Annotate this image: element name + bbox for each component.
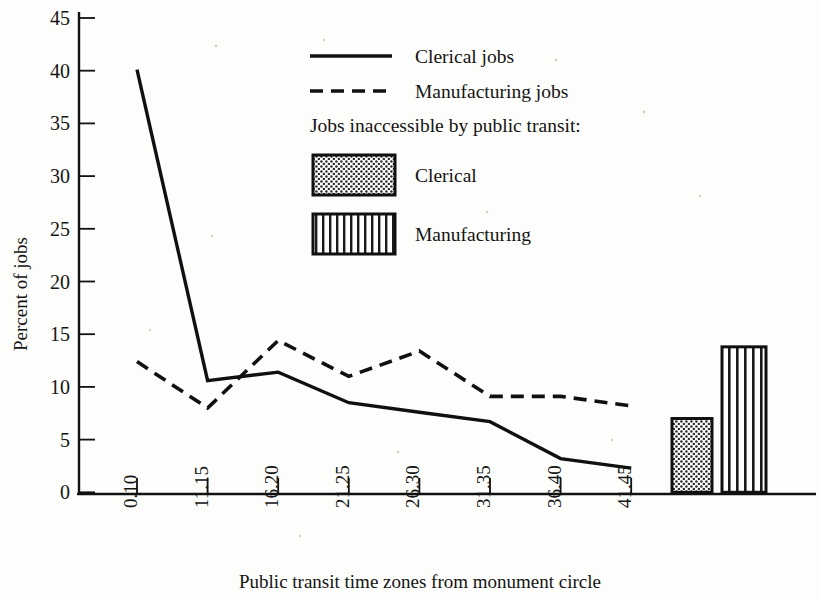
manufacturing-jobs-line [137, 341, 631, 408]
y-tick-label-40: 40 [50, 60, 70, 82]
y-tick-label-0: 0 [60, 481, 70, 503]
legend-label-manufacturing-jobs: Manufacturing jobs [415, 81, 568, 102]
x-tick-label-5: 31.35 [473, 465, 494, 508]
x-tick-label-7: 41.45 [614, 465, 635, 508]
legend-swatch-manufacturing-icon [313, 214, 395, 254]
scan-speckles [149, 39, 761, 537]
y-tick-label-5: 5 [60, 429, 70, 451]
legend: Clerical jobs Manufacturing jobs Jobs in… [310, 46, 581, 254]
legend-swatch-clerical-icon [313, 155, 395, 195]
x-tick-label-0: 0.10 [120, 475, 141, 508]
y-tick-label-20: 20 [50, 271, 70, 293]
legend-heading: Jobs inaccessible by public transit: [310, 115, 581, 136]
y-tick-label-25: 25 [50, 218, 70, 240]
y-axis-title: Percent of jobs [10, 237, 31, 351]
legend-label-manufacturing: Manufacturing [415, 224, 531, 245]
y-tick-label-10: 10 [50, 376, 70, 398]
bar-clerical [672, 419, 712, 493]
x-tick-label-1: 11.15 [191, 466, 212, 508]
legend-label-clerical: Clerical [415, 165, 477, 186]
chart-figure: 45 40 35 30 25 20 15 10 5 0 0.10 11.15 1… [0, 0, 819, 599]
y-tick-label-15: 15 [50, 323, 70, 345]
y-tick-label-45: 45 [50, 7, 70, 29]
bar-manufacturing [722, 347, 766, 492]
chart-canvas: 45 40 35 30 25 20 15 10 5 0 0.10 11.15 1… [0, 0, 819, 599]
legend-label-clerical-jobs: Clerical jobs [415, 46, 514, 67]
y-tick-label-35: 35 [50, 112, 70, 134]
y-axis: 45 40 35 30 25 20 15 10 5 0 [50, 7, 95, 503]
x-tick-label-6: 36.40 [544, 465, 565, 508]
x-tick-label-3: 21.25 [332, 465, 353, 508]
y-tick-label-30: 30 [50, 165, 70, 187]
x-axis-title: Public transit time zones from monument … [239, 571, 601, 592]
x-tick-label-4: 26.30 [402, 465, 423, 508]
x-tick-label-2: 16.20 [261, 465, 282, 508]
